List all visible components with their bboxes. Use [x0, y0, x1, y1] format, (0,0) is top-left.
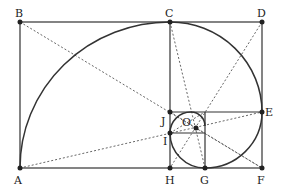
point-label-g: G: [200, 175, 209, 186]
point-label-c: C: [165, 8, 173, 19]
diagram-canvas: [0, 0, 285, 191]
point-label-f: F: [257, 175, 265, 186]
point-label-o: O: [182, 117, 191, 128]
point-label-e: E: [265, 107, 273, 118]
diagonal-lines: [20, 22, 262, 168]
point-label-h: H: [165, 175, 175, 186]
point-label-d: D: [257, 8, 266, 19]
point-label-j: J: [161, 116, 165, 127]
point-label-b: B: [15, 8, 23, 19]
point-label-a: A: [14, 175, 22, 186]
golden-spiral-diagram: A B C D E F G H I J O: [0, 0, 285, 191]
point-label-i: I: [163, 136, 167, 147]
